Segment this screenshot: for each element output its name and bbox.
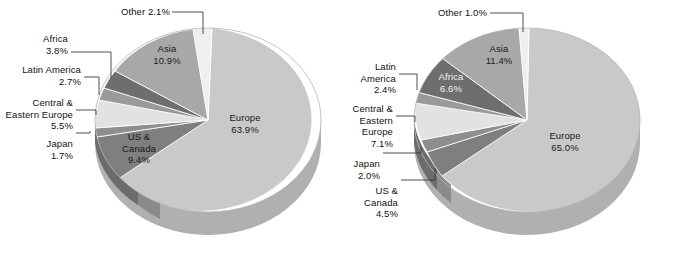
right-label-europe: Europe 65.0%: [535, 130, 595, 153]
right-label-latin-america: Latin America 2.4%: [339, 61, 396, 96]
pie-chart-figure: Other 2.1% Africa 3.8% Latin America 2.7…: [0, 0, 678, 261]
left-label-africa: Africa 3.8%: [0, 33, 68, 56]
right-label-asia: Asia 11.4%: [471, 43, 527, 66]
left-label-us-canada: US & Canada 9.4%: [108, 131, 170, 166]
right-label-other: Other 1.0%: [395, 7, 487, 19]
right-label-central-eastern-europe: Central & Eastern Europe 7.1%: [339, 103, 393, 149]
left-label-europe: Europe 63.9%: [215, 112, 275, 135]
right-label-africa: Africa 6.6%: [424, 71, 478, 94]
left-label-japan: Japan 1.7%: [0, 138, 73, 161]
right-pie-chart-panel: Other 1.0% Latin America 2.4% Central & …: [339, 0, 678, 261]
left-label-asia: Asia 10.9%: [140, 43, 194, 66]
left-label-latin-america: Latin America 2.7%: [0, 64, 81, 87]
right-label-japan: Japan 2.0%: [339, 158, 380, 181]
left-pie-chart-panel: Other 2.1% Africa 3.8% Latin America 2.7…: [0, 0, 339, 261]
left-label-central-eastern-europe: Central & Eastern Europe 5.5%: [0, 97, 73, 132]
left-label-other: Other 2.1%: [78, 6, 170, 18]
right-label-us-canada: US & Canada 4.5%: [339, 185, 398, 220]
